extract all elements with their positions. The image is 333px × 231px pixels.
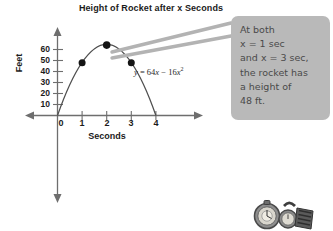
equation-annotation: y = 64x − 16x2 [134, 66, 183, 77]
stopwatch-right [279, 202, 297, 229]
y-tick-label-50: 50 [28, 56, 50, 65]
figure-container: Height of Rocket after x Seconds [0, 0, 333, 231]
data-point-1-48 [79, 59, 86, 66]
equation-term1-var: x [155, 67, 159, 77]
x-axis-right-arrow-icon [194, 112, 203, 120]
y-axis-bottom-arrow-icon [54, 194, 62, 203]
x-tick-label-4: 4 [150, 118, 162, 128]
callout-line-1: At both [240, 23, 323, 37]
callout-line-5: a height of [240, 80, 323, 94]
x-axis-title: Seconds [62, 131, 152, 141]
data-point-2-64 [103, 41, 111, 49]
x-tick-label-3: 3 [125, 118, 137, 128]
y-axis-title: Feet [14, 46, 24, 80]
callout-pointer-lines [112, 23, 231, 58]
equation-minus: − [161, 67, 166, 77]
callout-line-3: and x = 3 sec, [240, 51, 323, 65]
equation-term2-coef: 16 [168, 67, 177, 77]
stopwatch-left [255, 201, 280, 229]
equation-term2-exponent: 2 [180, 66, 183, 72]
y-tick-label-60: 60 [28, 45, 50, 54]
callout-line-4: the rocket has [240, 66, 323, 80]
stopwatch-case [295, 208, 313, 229]
y-tick-label-20: 20 [28, 89, 50, 98]
x-axis-left-arrow-icon [25, 112, 34, 120]
y-tick-label-30: 30 [28, 78, 50, 87]
x-tick-label-0: 0 [55, 118, 67, 128]
x-tick-label-1: 1 [76, 118, 88, 128]
equation-lhs: y [134, 67, 138, 77]
callout-line-2: x = 1 sec [240, 37, 323, 51]
y-tick-label-40: 40 [28, 67, 50, 76]
x-tick-label-2: 2 [101, 118, 113, 128]
callout-line-6: 48 ft. [240, 94, 323, 108]
callout-box: At both x = 1 sec and x = 3 sec, the roc… [231, 16, 330, 120]
equation-equals: = [140, 67, 145, 77]
parabola-curve [58, 44, 156, 115]
y-tick-label-10: 10 [28, 100, 50, 109]
stopwatch-photo [247, 192, 317, 231]
y-axis-top-arrow-icon [54, 27, 62, 36]
